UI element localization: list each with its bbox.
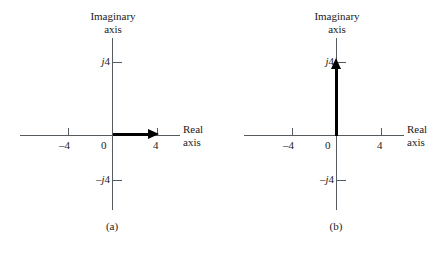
real-axis-line bbox=[244, 135, 404, 136]
tick-label-negj4-prefix: –j bbox=[96, 173, 105, 185]
panel-a-real-phasor: Imaginary axis Real axis –4 4 0 j4 –j4 (… bbox=[0, 0, 224, 256]
tick-label-negj4-value: 4 bbox=[329, 173, 335, 185]
tick-label-neg4: –4 bbox=[283, 139, 294, 151]
imaginary-axis-label: Imaginary axis bbox=[63, 10, 163, 36]
imaginary-axis-label-line2: axis bbox=[328, 23, 346, 35]
tick-mark-pos4 bbox=[381, 128, 382, 136]
tick-label-pos4: 4 bbox=[153, 139, 159, 151]
real-axis-label-line1: Real bbox=[407, 123, 427, 135]
tick-label-negj4: –j4 bbox=[307, 173, 334, 185]
panel-b-caption: (b) bbox=[286, 220, 386, 232]
phasor-real-4-shaft bbox=[113, 133, 149, 136]
tick-label-negj4-prefix: –j bbox=[320, 173, 329, 185]
imaginary-axis-label-line1: Imaginary bbox=[90, 10, 135, 22]
real-axis-label: Real axis bbox=[183, 123, 203, 149]
tick-label-j4-value: 4 bbox=[105, 55, 111, 67]
tick-mark-negj4 bbox=[113, 180, 122, 181]
imaginary-axis-line bbox=[112, 38, 113, 210]
origin-label: 0 bbox=[101, 139, 107, 151]
panel-a-caption: (a) bbox=[62, 220, 162, 232]
phasor-imaginary-j4-shaft bbox=[335, 68, 338, 136]
tick-mark-negj4 bbox=[337, 180, 346, 181]
tick-label-j4: j4 bbox=[90, 55, 110, 67]
real-axis-label-line2: axis bbox=[183, 136, 201, 148]
real-axis-label: Real axis bbox=[407, 123, 427, 149]
imaginary-axis-label-line2: axis bbox=[104, 23, 122, 35]
imaginary-axis-label-line1: Imaginary bbox=[314, 10, 359, 22]
tick-mark-neg4 bbox=[68, 128, 69, 136]
origin-label: 0 bbox=[325, 139, 331, 151]
tick-label-negj4-value: 4 bbox=[105, 173, 111, 185]
tick-label-negj4: –j4 bbox=[83, 173, 110, 185]
tick-label-pos4: 4 bbox=[377, 139, 383, 151]
tick-mark-neg4 bbox=[292, 128, 293, 136]
phasor-imaginary-j4-arrowhead bbox=[331, 58, 341, 69]
tick-label-neg4: –4 bbox=[59, 139, 70, 151]
phasor-real-4-arrowhead bbox=[148, 129, 159, 139]
imaginary-axis-label: Imaginary axis bbox=[287, 10, 387, 36]
panel-b-imaginary-phasor: Imaginary axis Real axis –4 4 0 j4 –j4 (… bbox=[224, 0, 448, 256]
real-axis-label-line2: axis bbox=[407, 136, 425, 148]
tick-mark-j4 bbox=[113, 62, 122, 63]
real-axis-label-line1: Real bbox=[183, 123, 203, 135]
figure-complex-plane-phasors: Imaginary axis Real axis –4 4 0 j4 –j4 (… bbox=[0, 0, 448, 256]
